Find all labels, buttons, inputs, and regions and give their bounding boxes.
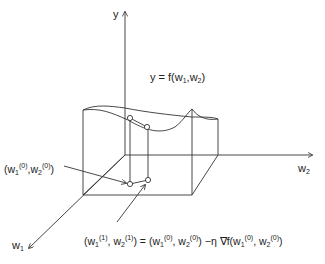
w2-axis-label: w2: [298, 163, 310, 175]
surface-equation-label: y = f(w1,w2): [150, 72, 205, 84]
gradient-descent-diagram: [0, 0, 325, 264]
surface-front-edge: [83, 109, 192, 131]
update-point-arrow: [117, 185, 145, 222]
surface-point-next: [144, 124, 149, 129]
surface-point-start: [127, 115, 132, 120]
base-point-next: [145, 177, 150, 182]
update-rule-equation: (w1(1), w2(1)) = (w1(0), w2(0)) −η ∇f(w1…: [84, 234, 283, 248]
start-point-arrow: [64, 166, 126, 183]
start-point-label: (w1(0),w2(0)): [4, 162, 54, 176]
base-point-start: [127, 181, 132, 186]
y-axis-label: y: [113, 9, 119, 20]
w1-axis-label: w1: [12, 240, 24, 252]
surface-back-edge: [83, 106, 218, 119]
